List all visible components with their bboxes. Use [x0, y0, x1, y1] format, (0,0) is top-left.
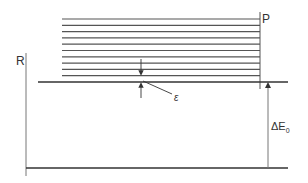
p-label: P: [262, 12, 270, 26]
p-level-lines: [62, 19, 260, 76]
energy-level-diagram: P R ε ΔE0: [0, 0, 308, 183]
delta-e-subscript: 0: [286, 127, 290, 134]
r-label: R: [16, 54, 25, 68]
epsilon-leader-line: [143, 81, 172, 94]
epsilon-label: ε: [174, 92, 179, 103]
delta-e-text: ΔE: [271, 120, 286, 132]
delta-e0-label: ΔE0: [271, 120, 290, 134]
